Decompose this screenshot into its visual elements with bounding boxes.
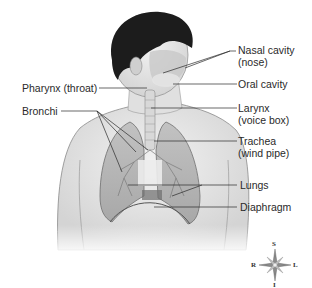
label-text: Oral cavity (238, 78, 288, 90)
label-text: Nasal cavity (238, 44, 295, 56)
label-text: (wind pipe) (238, 147, 289, 159)
label-text: Diaphragm (240, 201, 291, 213)
label-text: Bronchi (22, 105, 58, 117)
label-larynx: Larynx (voice box) (238, 102, 289, 126)
label-pharynx: Pharynx (throat) (22, 82, 97, 94)
trachea-structure (145, 90, 155, 150)
label-nasal-cavity: Nasal cavity (nose) (238, 44, 295, 68)
label-text: (voice box) (238, 114, 289, 126)
compass-inferior: I (273, 281, 276, 288)
label-text: Trachea (238, 135, 289, 147)
label-text: (nose) (238, 56, 295, 68)
label-text: Pharynx (throat) (22, 82, 97, 94)
label-text: Larynx (238, 102, 289, 114)
label-oral-cavity: Oral cavity (238, 78, 288, 90)
label-diaphragm: Diaphragm (240, 201, 291, 213)
label-text: Lungs (240, 179, 269, 191)
label-trachea: Trachea (wind pipe) (238, 135, 289, 159)
label-bronchi: Bronchi (22, 105, 58, 117)
respiratory-diagram: Nasal cavity (nose) Oral cavity Pharynx … (0, 0, 312, 288)
compass-left: L (293, 261, 298, 269)
compass-superior: S (272, 240, 276, 248)
label-lungs: Lungs (240, 179, 269, 191)
compass-right: R (251, 261, 256, 269)
